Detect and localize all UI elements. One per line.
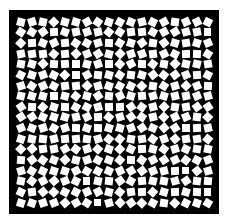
white-tile <box>202 101 212 111</box>
white-tile <box>105 39 113 47</box>
tile-cell <box>169 165 180 176</box>
white-tile <box>148 49 156 57</box>
white-tile <box>115 123 124 132</box>
tile-cell <box>59 69 70 80</box>
white-tile <box>114 80 124 90</box>
tile-cell <box>114 123 125 134</box>
white-tile <box>158 27 168 37</box>
tile-cell <box>169 197 180 208</box>
tile-cell <box>81 144 92 155</box>
tile-cell <box>169 80 180 91</box>
white-tile <box>159 177 168 186</box>
white-tile <box>181 187 190 196</box>
white-tile <box>158 16 168 26</box>
white-tile <box>171 167 179 175</box>
white-tile <box>71 81 79 89</box>
white-tile <box>181 27 190 36</box>
tile-cell <box>70 176 81 187</box>
white-tile <box>93 59 103 69</box>
white-tile <box>16 166 25 175</box>
white-tile <box>180 80 191 91</box>
white-tile <box>49 145 58 154</box>
white-tile <box>148 166 158 176</box>
tile-cell <box>191 16 202 27</box>
tile-cell <box>125 123 136 134</box>
white-tile <box>181 102 190 111</box>
tile-cell <box>59 165 70 176</box>
white-tile <box>159 187 168 196</box>
tile-cell <box>37 112 48 123</box>
tile-cell <box>147 16 158 27</box>
tile-cell <box>26 48 37 59</box>
white-tile <box>93 134 102 143</box>
tile-cell <box>92 48 103 59</box>
white-tile <box>192 71 200 79</box>
white-tile <box>26 165 36 175</box>
white-tile <box>192 177 200 185</box>
tile-cell <box>125 112 136 123</box>
tile-cell <box>191 144 202 155</box>
tile-cell <box>180 165 191 176</box>
tile-cell <box>15 48 26 59</box>
white-tile <box>126 123 136 133</box>
white-tile <box>193 49 201 57</box>
white-tile <box>114 27 124 37</box>
tile-cell <box>59 37 70 48</box>
white-tile <box>27 59 36 68</box>
white-tile <box>16 187 26 197</box>
white-tile <box>28 39 36 47</box>
white-tile <box>192 28 201 37</box>
white-tile <box>126 38 135 47</box>
tile-cell <box>70 112 81 123</box>
white-tile <box>71 17 80 26</box>
white-tile <box>82 27 92 37</box>
white-tile <box>148 145 157 154</box>
tile-cell <box>114 37 125 48</box>
white-tile <box>158 80 168 90</box>
tile-cell <box>125 187 136 198</box>
white-tile <box>202 48 212 58</box>
tile-cell <box>136 187 147 198</box>
white-tile <box>48 176 59 187</box>
tile-cell <box>26 80 37 91</box>
tile-cell <box>70 101 81 112</box>
white-tile <box>71 113 80 122</box>
white-tile <box>147 187 158 198</box>
white-tile <box>71 155 80 164</box>
white-tile <box>38 166 48 176</box>
white-tile <box>148 91 157 100</box>
tile-cell <box>92 144 103 155</box>
white-tile <box>38 70 48 80</box>
tile-cell <box>136 80 147 91</box>
white-tile <box>82 144 91 153</box>
tile-cell <box>81 16 92 27</box>
tile-cell <box>125 155 136 166</box>
white-tile <box>136 165 147 176</box>
white-tile <box>191 155 201 165</box>
white-tile <box>170 177 179 186</box>
white-tile <box>49 102 58 111</box>
tile-cell <box>169 48 180 59</box>
tile-cell <box>158 165 169 176</box>
tile-cell <box>191 155 202 166</box>
tile-cell <box>70 69 81 80</box>
tile-cell <box>37 80 48 91</box>
white-tile <box>48 48 59 59</box>
tile-cell <box>26 165 37 176</box>
white-tile <box>169 69 180 80</box>
tile-cell <box>26 123 37 134</box>
white-tile <box>37 176 47 186</box>
white-tile <box>158 144 168 154</box>
white-tile <box>170 91 179 100</box>
tile-cell <box>147 197 158 208</box>
white-tile <box>93 177 102 186</box>
white-tile <box>125 144 135 154</box>
tile-grid <box>15 16 213 208</box>
white-tile <box>125 176 135 186</box>
white-tile <box>181 70 191 80</box>
tile-cell <box>15 59 26 70</box>
tile-cell <box>169 59 180 70</box>
tile-cell <box>70 123 81 134</box>
white-tile <box>104 92 112 100</box>
tile-cell <box>92 27 103 38</box>
